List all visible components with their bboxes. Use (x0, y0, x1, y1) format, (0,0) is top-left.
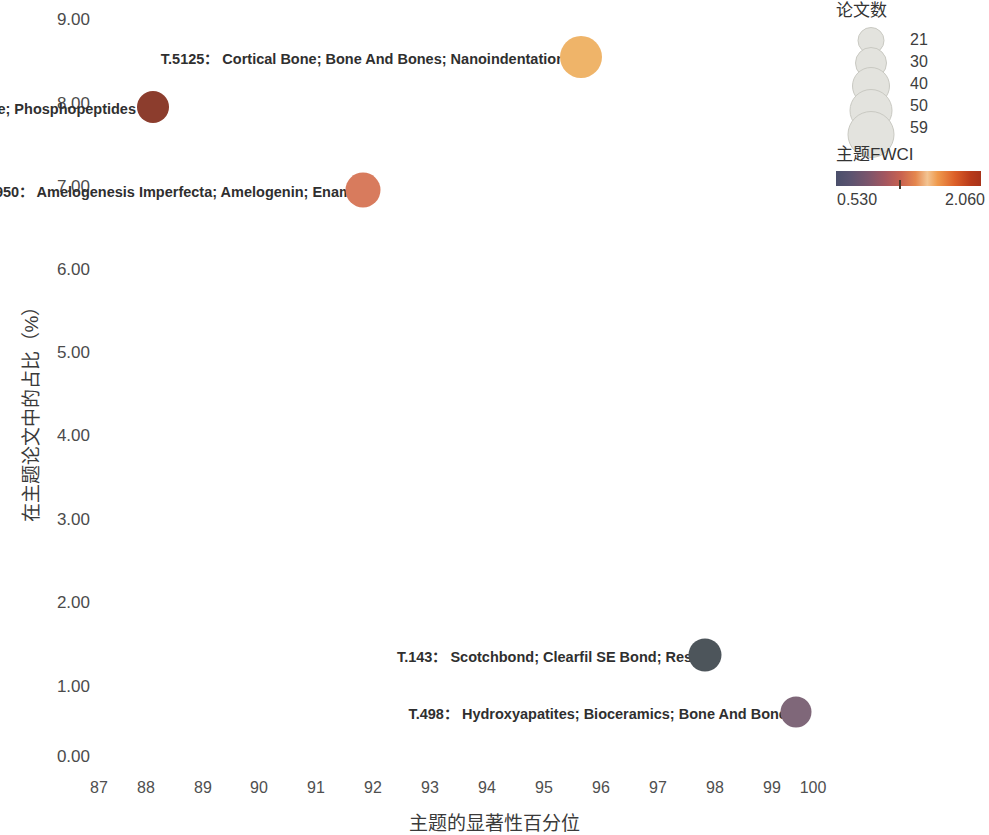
color-legend-title: 主题FWCI (836, 146, 988, 165)
size-legend-title: 论文数 (836, 2, 986, 21)
bubble-chart: 在主题论文中的占比（%） 9.00 8.00 7.00 6.00 5.00 4.… (0, 0, 989, 835)
point-label-t23015: T.23015： Enamel; Amorphous Calcium Phosp… (0, 97, 136, 118)
point-label-t5125: T.5125： Cortical Bone; Bone And Bones; N… (161, 47, 565, 68)
point-label-t2950: T.2950： Amelogenesis Imperfecta; Ameloge… (0, 180, 364, 201)
bubble-t498[interactable] (781, 697, 812, 728)
bubble-t143[interactable] (689, 639, 722, 672)
color-legend-min: 0.530 (837, 191, 877, 209)
size-legend: 论文数 21 30 40 50 59 (836, 2, 986, 139)
size-legend-value-21: 21 (910, 32, 928, 48)
color-legend-tick (899, 180, 901, 189)
color-legend-gradient-bar (836, 171, 981, 186)
point-label-t498: T.498： Hydroxyapatites; Bioceramics; Bon… (408, 702, 795, 723)
size-legend-value-30: 30 (910, 54, 928, 70)
size-legend-value-50: 50 (910, 98, 928, 114)
color-legend-max: 2.060 (945, 191, 985, 209)
point-label-t143: T.143： Scotchbond; Clearfil SE Bond; Res… (397, 645, 705, 666)
size-legend-value-40: 40 (910, 76, 928, 92)
bubble-t5125[interactable] (560, 36, 602, 78)
size-legend-value-59: 59 (910, 120, 928, 136)
color-legend-range-labels: 0.530 2.060 (836, 191, 988, 211)
bubble-t23015[interactable] (137, 91, 169, 123)
bubble-t2950[interactable] (346, 173, 381, 208)
size-legend-swatches: 21 30 40 50 59 (838, 27, 904, 139)
color-legend: 主题FWCI 0.530 2.060 (836, 146, 988, 211)
